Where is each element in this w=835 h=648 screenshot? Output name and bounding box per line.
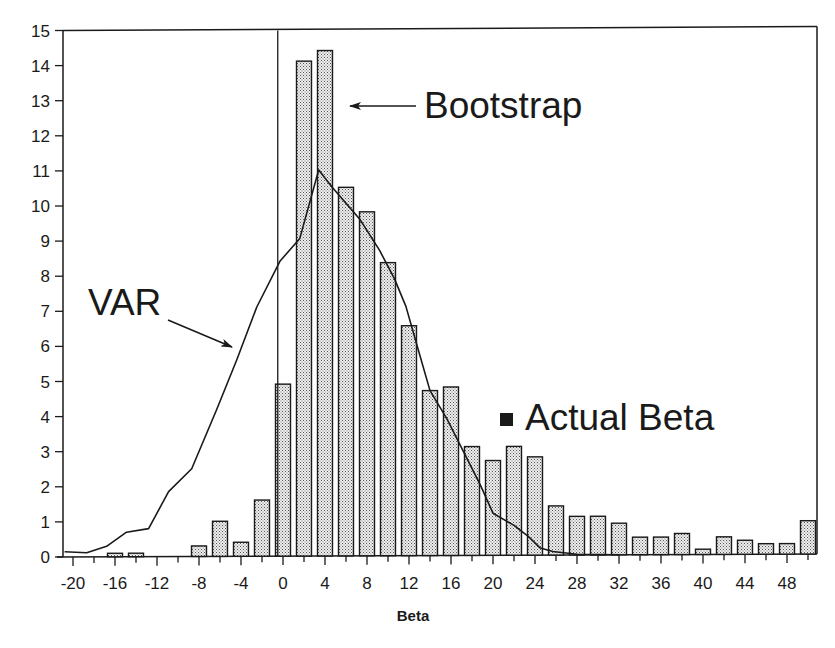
x-tick-label: 0 — [278, 574, 287, 593]
y-tick-label: 10 — [31, 197, 50, 216]
y-tick-label: 12 — [31, 127, 50, 146]
y-tick-label: 5 — [41, 373, 50, 392]
x-axis-title: Beta — [397, 607, 430, 624]
y-tick-label: 11 — [32, 162, 50, 181]
bar — [381, 263, 396, 556]
x-tick-label: 32 — [610, 574, 629, 593]
bar — [591, 516, 606, 555]
x-tick-label: 8 — [362, 574, 371, 593]
bar — [423, 391, 438, 556]
bar — [801, 521, 816, 554]
bar — [507, 446, 522, 555]
bar — [402, 326, 417, 556]
x-tick-label: -16 — [103, 574, 128, 593]
bar — [738, 540, 753, 554]
bar — [717, 537, 732, 555]
bar — [612, 523, 627, 555]
bar — [318, 51, 333, 556]
bar — [213, 521, 228, 556]
var-annotation: VAR — [88, 282, 232, 347]
histogram-chart: 0123456789101112131415 -20-16-12-8-40481… — [0, 0, 835, 648]
bootstrap-bars — [108, 51, 816, 557]
y-tick-label: 13 — [31, 92, 50, 111]
bar — [129, 553, 144, 557]
actual-beta-marker-icon — [500, 413, 513, 426]
bootstrap-annotation: Bootstrap — [350, 85, 582, 126]
x-tick-label: 16 — [442, 574, 461, 593]
bar — [654, 537, 669, 555]
x-tick-label: -8 — [191, 574, 206, 593]
bar — [549, 506, 564, 555]
x-tick-label: 4 — [320, 574, 329, 593]
bar — [465, 447, 480, 556]
bar — [486, 461, 501, 556]
bootstrap-label: Bootstrap — [424, 85, 582, 126]
x-tick-label: 36 — [652, 574, 671, 593]
var-label: VAR — [88, 282, 161, 323]
y-axis: 0123456789101112131415 — [31, 22, 63, 568]
x-tick-label: 48 — [778, 574, 797, 593]
y-tick-label: 8 — [41, 267, 50, 286]
bar — [444, 387, 459, 555]
bar — [780, 544, 795, 555]
actual-beta-label: Actual Beta — [525, 397, 715, 438]
x-tick-label: 40 — [694, 574, 713, 593]
x-tick-label: -20 — [61, 574, 86, 593]
var-arrow-icon — [168, 320, 232, 347]
x-axis: -20-16-12-8-404812162024283236404448 — [61, 554, 808, 593]
bar — [297, 61, 312, 556]
bar — [759, 544, 774, 555]
x-tick-label: -4 — [233, 574, 248, 593]
y-tick-label: 9 — [41, 232, 50, 251]
x-tick-label: 12 — [400, 574, 419, 593]
bar — [528, 457, 543, 555]
y-tick-label: 15 — [31, 22, 50, 41]
x-tick-label: 28 — [568, 574, 587, 593]
bar — [192, 546, 207, 557]
y-tick-label: 2 — [41, 478, 50, 497]
actual-beta-annotation: Actual Beta — [500, 397, 715, 438]
y-tick-label: 6 — [41, 337, 50, 356]
y-tick-label: 4 — [41, 408, 50, 427]
x-tick-label: 44 — [736, 574, 755, 593]
y-tick-label: 0 — [41, 548, 50, 567]
bar — [360, 212, 375, 556]
bar — [675, 533, 690, 554]
y-tick-label: 7 — [41, 302, 50, 321]
x-tick-label: 20 — [484, 574, 503, 593]
bar — [339, 187, 354, 556]
frame-top — [63, 27, 817, 31]
y-tick-label: 14 — [31, 57, 50, 76]
bar — [255, 500, 270, 556]
bar — [234, 542, 249, 556]
y-tick-label: 1 — [41, 513, 50, 532]
y-tick-label: 3 — [41, 443, 50, 462]
x-tick-label: 24 — [526, 574, 545, 593]
bar — [108, 553, 123, 557]
bar — [570, 516, 585, 555]
bar — [696, 549, 711, 554]
bar — [633, 537, 648, 555]
x-tick-label: -12 — [145, 574, 170, 593]
